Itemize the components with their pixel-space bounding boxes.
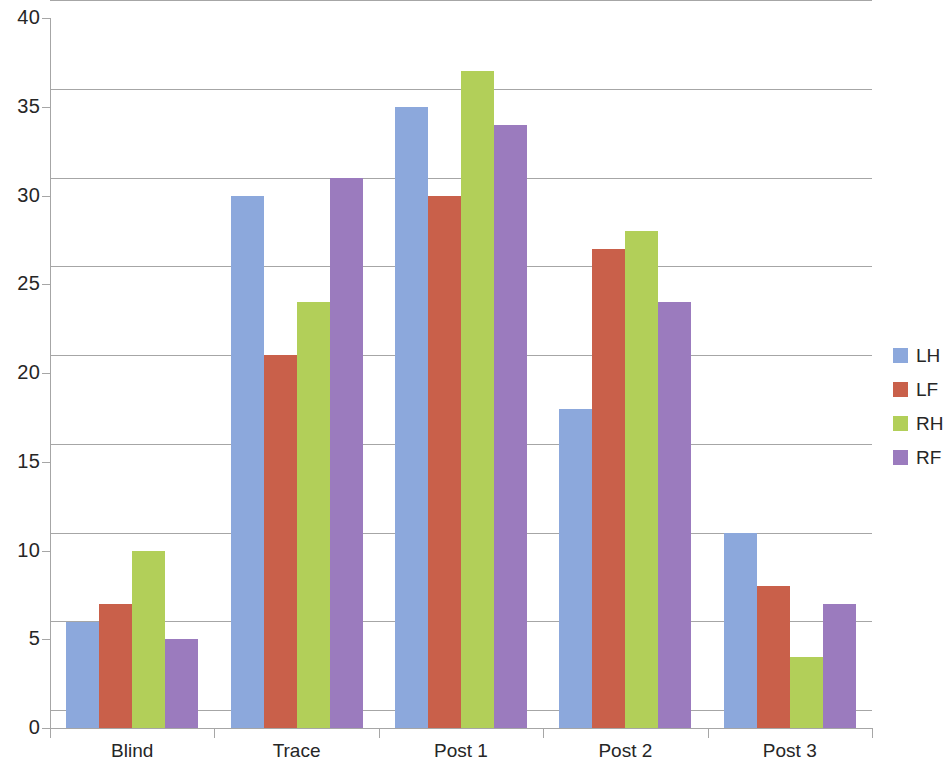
legend-swatch-rf <box>893 450 908 465</box>
x-axis-tick <box>543 729 544 738</box>
legend-item-lf: LF <box>893 379 948 400</box>
x-axis-line <box>50 728 873 729</box>
bar-lh-post-1 <box>395 107 428 728</box>
bar-lf-post-3 <box>757 586 790 728</box>
legend-label: LF <box>916 380 938 399</box>
bar-lh-post-3 <box>724 533 757 728</box>
bar-rf-post-1 <box>494 125 527 729</box>
bar-lh-blind <box>66 622 99 729</box>
y-axis-tick-label: 40 <box>2 7 40 27</box>
gridline <box>50 0 872 1</box>
x-axis-tick <box>872 729 873 738</box>
y-axis-tick-label: 0 <box>2 717 40 737</box>
y-axis-labels: 0510152025303540 <box>0 0 40 764</box>
x-axis-category-label: Post 1 <box>379 740 543 762</box>
x-axis-tick <box>379 729 380 738</box>
bar-rh-trace <box>297 302 330 728</box>
legend-item-lh: LH <box>893 345 948 366</box>
y-axis-tick-label: 25 <box>2 273 40 293</box>
bar-rf-trace <box>330 178 363 728</box>
bar-rf-post-3 <box>823 604 856 728</box>
bar-rf-blind <box>165 639 198 728</box>
bar-rh-post-3 <box>790 657 823 728</box>
chart-legend: LHLFRHRF <box>893 345 948 481</box>
legend-item-rf: RF <box>893 447 948 468</box>
legend-label: RH <box>916 414 943 433</box>
x-axis-tick <box>50 729 51 738</box>
y-axis-tick-label: 35 <box>2 96 40 116</box>
bar-rh-post-1 <box>461 71 494 728</box>
bar-rh-post-2 <box>625 231 658 728</box>
legend-label: RF <box>916 448 941 467</box>
y-axis-tick-label: 15 <box>2 451 40 471</box>
x-axis-category-label: Blind <box>50 740 214 762</box>
x-axis-tick <box>214 729 215 738</box>
legend-swatch-lf <box>893 382 908 397</box>
bar-lf-post-1 <box>428 196 461 729</box>
legend-swatch-rh <box>893 416 908 431</box>
bar-rh-blind <box>132 551 165 729</box>
x-axis-tick <box>708 729 709 738</box>
bar-lf-blind <box>99 604 132 728</box>
bar-lh-trace <box>231 196 264 729</box>
bar-chart: 0510152025303540 BlindTracePost 1Post 2P… <box>0 0 948 764</box>
y-axis-tick-label: 20 <box>2 362 40 382</box>
y-axis-tick-label: 10 <box>2 540 40 560</box>
y-axis-tick-label: 30 <box>2 185 40 205</box>
bar-lf-post-2 <box>592 249 625 728</box>
x-axis-category-label: Post 3 <box>708 740 872 762</box>
bar-rf-post-2 <box>658 302 691 728</box>
plot-area <box>50 18 872 728</box>
x-axis-category-label: Trace <box>214 740 378 762</box>
y-axis-tick-label: 5 <box>2 628 40 648</box>
legend-swatch-lh <box>893 348 908 363</box>
bar-lh-post-2 <box>559 409 592 729</box>
legend-label: LH <box>916 346 940 365</box>
bar-lf-trace <box>264 355 297 728</box>
x-axis-category-label: Post 2 <box>543 740 707 762</box>
legend-item-rh: RH <box>893 413 948 434</box>
